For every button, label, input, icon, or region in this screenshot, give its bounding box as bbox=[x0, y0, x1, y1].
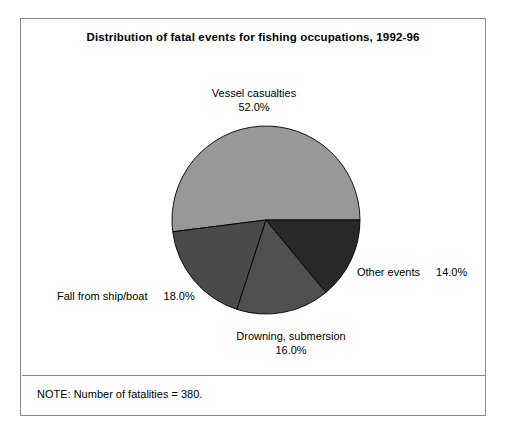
note-text: NOTE: Number of fatalities = 380. bbox=[37, 388, 202, 400]
pie-label-vessel-casualties: Vessel casualties 52.0% bbox=[21, 86, 487, 114]
pie-label-other-events-value: 14.0% bbox=[436, 266, 467, 278]
pie-label-drowning-submersion: Drowning, submersion 16.0% bbox=[151, 329, 431, 357]
pie-slices-group bbox=[172, 126, 360, 314]
pie-svg bbox=[21, 19, 487, 417]
pie-label-fall-from-ship-boat: Fall from ship/boat 18.0% bbox=[57, 289, 195, 303]
pie-label-other-events-name: Other events bbox=[357, 266, 420, 278]
pie-label-vessel-casualties-name: Vessel casualties bbox=[21, 86, 487, 100]
pie-label-drowning-submersion-name: Drowning, submersion bbox=[151, 329, 431, 343]
pie-chart: Vessel casualties 52.0% Fall from ship/b… bbox=[21, 19, 487, 417]
pie-slice-vessel-casualties bbox=[172, 126, 360, 232]
pie-label-fall-from-ship-boat-value: 18.0% bbox=[164, 290, 195, 302]
pie-label-other-events: Other events 14.0% bbox=[357, 265, 467, 279]
note-divider bbox=[22, 375, 486, 376]
pie-label-fall-from-ship-boat-name: Fall from ship/boat bbox=[57, 290, 147, 302]
pie-label-drowning-submersion-value: 16.0% bbox=[151, 343, 431, 357]
pie-label-vessel-casualties-value: 52.0% bbox=[21, 100, 487, 114]
figure-frame: Distribution of fatal events for fishing… bbox=[20, 18, 486, 416]
